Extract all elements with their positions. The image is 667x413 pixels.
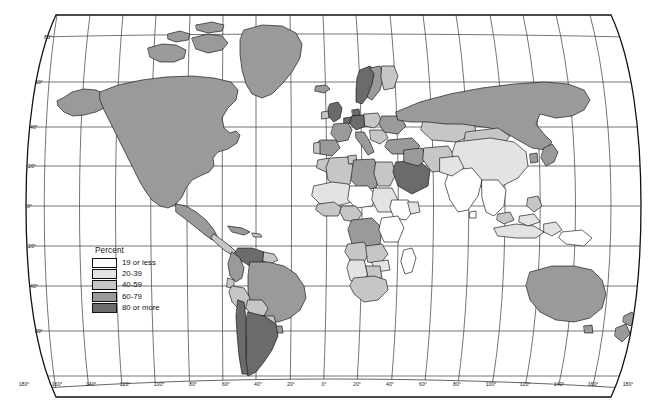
lon-label-180w: 180° (19, 381, 30, 387)
lon-label-60w: 60° (222, 381, 230, 387)
legend-item-40-59: 40-59 (92, 280, 188, 291)
legend-item-19-or-less: 19 or less (92, 257, 188, 268)
lon-label-100w: 100° (154, 381, 165, 387)
land-portugal (314, 142, 320, 154)
land-tasmania (584, 325, 593, 333)
lat-label-60n: 60° (35, 79, 43, 85)
legend-label-19-or-less: 19 or less (122, 258, 156, 268)
legend-item-20-39: 20-39 (92, 268, 188, 279)
lat-label-40n: 40° (30, 124, 38, 130)
lon-label-120e: 120° (520, 381, 531, 387)
lon-label-160e: 160° (588, 381, 599, 387)
lat-label-60s: 60° (35, 328, 43, 334)
legend-swatch-19-or-less (92, 258, 117, 268)
lon-label-20e: 20° (353, 381, 361, 387)
map-legend: Percent 19 or less 20-39 40-59 60-79 80 … (92, 246, 188, 314)
legend-label-80-or-more: 80 or more (122, 303, 160, 313)
land-sri-lanka (470, 211, 476, 218)
world-map-figure: 80° 60° 40° 20° 0° 20° 40° 60° 180° 160°… (0, 0, 667, 413)
legend-title: Percent (95, 246, 188, 255)
legend-label-20-39: 20-39 (122, 269, 142, 279)
lon-label-140w: 140° (86, 381, 97, 387)
map-canvas: 80° 60° 40° 20° 0° 20° 40° 60° 180° 160°… (0, 0, 667, 413)
land-korea (530, 153, 538, 163)
lon-label-0: 0° (322, 381, 327, 387)
legend-swatch-40-59 (92, 280, 117, 290)
lat-label-20n: 20° (28, 163, 36, 169)
lon-label-140e: 140° (554, 381, 565, 387)
legend-swatch-60-79 (92, 292, 117, 302)
lon-label-180e: 180° (623, 381, 634, 387)
legend-label-60-79: 60-79 (122, 292, 142, 302)
lon-label-40w: 40° (254, 381, 262, 387)
lon-label-80e: 80° (453, 381, 461, 387)
lat-label-80n: 80° (44, 34, 52, 40)
lon-label-160w: 160° (52, 381, 63, 387)
lon-label-40e: 40° (386, 381, 394, 387)
lon-label-100e: 100° (486, 381, 497, 387)
legend-swatch-80-or-more (92, 303, 117, 313)
lon-label-80w: 80° (189, 381, 197, 387)
legend-item-60-79: 60-79 (92, 291, 188, 302)
map-body (0, 0, 667, 413)
lon-label-120w: 120° (120, 381, 131, 387)
land-denmark (352, 109, 360, 116)
lon-label-20w: 20° (287, 381, 295, 387)
legend-item-80-or-more: 80 or more (92, 303, 188, 314)
land-ireland (322, 111, 329, 119)
legend-swatch-20-39 (92, 269, 117, 279)
lat-label-40s: 40° (30, 283, 38, 289)
lon-label-60e: 60° (419, 381, 427, 387)
legend-label-40-59: 40-59 (122, 280, 142, 290)
lat-label-0: 0° (27, 203, 32, 209)
lat-label-20s: 20° (28, 243, 36, 249)
